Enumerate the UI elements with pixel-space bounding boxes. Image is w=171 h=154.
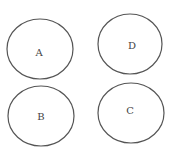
- circle-node-d: D: [98, 14, 162, 74]
- circle-node-c: C: [98, 83, 164, 143]
- circle-node-b: B: [8, 86, 74, 146]
- circle-node-a: A: [7, 19, 73, 79]
- label-d: D: [128, 40, 136, 51]
- label-b: B: [37, 111, 44, 122]
- label-c: C: [126, 105, 134, 116]
- label-a: A: [34, 47, 43, 58]
- diagram-canvas: A D B C: [0, 0, 171, 154]
